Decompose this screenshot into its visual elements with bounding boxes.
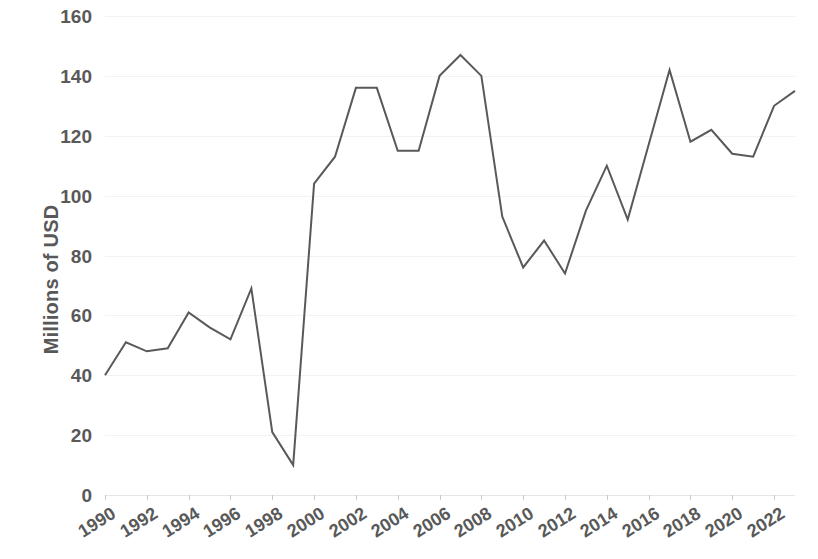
x-axis-tick-label: 2012	[525, 504, 579, 547]
x-axis-tick-mark	[523, 495, 524, 500]
x-axis-tick-mark	[230, 495, 231, 500]
x-axis-tick-mark	[147, 495, 148, 500]
x-axis-tick-mark	[314, 495, 315, 500]
x-axis-tick-mark	[356, 495, 357, 500]
x-axis-tick-mark	[565, 495, 566, 500]
x-axis-tick-label: 2004	[358, 504, 412, 547]
x-axis-tick-label: 2010	[483, 504, 537, 547]
x-axis-tick-label: 2014	[567, 504, 621, 547]
x-axis-tick-label: 1990	[65, 504, 119, 547]
x-axis-tick-mark	[774, 495, 775, 500]
x-axis-tick-mark	[272, 495, 273, 500]
x-axis-tick-mark	[105, 495, 106, 500]
x-axis-tick-mark	[189, 495, 190, 500]
x-axis-tick-label: 2016	[609, 504, 663, 547]
x-axis-tick-mark	[440, 495, 441, 500]
x-axis-tick-label: 2002	[316, 504, 370, 547]
x-axis-tick-mark	[690, 495, 691, 500]
x-axis-tick-mark	[607, 495, 608, 500]
x-axis-tick-label: 1994	[149, 504, 203, 547]
x-axis-tick-label: 1992	[107, 504, 161, 547]
x-axis-tick-label: 1998	[232, 504, 286, 547]
x-axis-tick-mark	[481, 495, 482, 500]
line-chart: Millions of USD 160140120100806040200 19…	[0, 0, 818, 559]
x-axis-tick-mark	[732, 495, 733, 500]
x-axis-tick-label: 1996	[190, 504, 244, 547]
x-axis-tick-label: 2018	[650, 504, 704, 547]
x-axis-tick-labels: 1990199219941996199820002002200420062008…	[0, 0, 818, 559]
x-axis-tick-label: 2008	[441, 504, 495, 547]
x-axis-tick-label: 2000	[274, 504, 328, 547]
x-axis-tick-label: 2020	[692, 504, 746, 547]
x-axis-tick-label: 2006	[399, 504, 453, 547]
x-axis-tick-label: 2022	[734, 504, 788, 547]
x-axis-tick-mark	[398, 495, 399, 500]
x-axis-tick-mark	[649, 495, 650, 500]
